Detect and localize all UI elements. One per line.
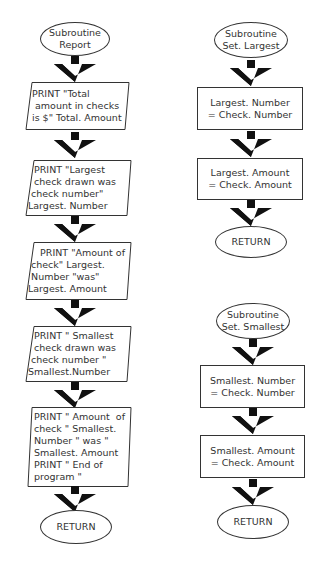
process-box-smallest-number: Smallest. Number = Check. Number [200, 365, 305, 408]
start-label: Subroutine Set. Smallest [222, 309, 285, 333]
start-label: Subroutine Report [49, 27, 101, 51]
flow-arrow-icon [52, 132, 98, 158]
flow-arrow-icon [52, 486, 98, 512]
flow-arrow-icon [52, 300, 98, 326]
output-text: PRINT "Total amount in checks is $" Tota… [32, 88, 122, 124]
flow-arrow-icon [230, 339, 276, 365]
start-terminal-report: Subroutine Report [40, 22, 110, 56]
output-box-largest-amount: PRINT "Amount of check" Largest. Number … [24, 242, 132, 300]
flow-arrow-icon [52, 216, 98, 242]
start-terminal-set-smallest: Subroutine Set. Smallest [216, 303, 290, 339]
process-text: Smallest. Number = Check. Number [210, 375, 295, 399]
flow-arrow-icon [228, 131, 274, 157]
flow-arrow-icon [228, 200, 274, 226]
flow-arrow-icon [228, 60, 274, 86]
process-text: Largest. Amount = Check. Amount [208, 167, 292, 191]
output-text: PRINT " Smallest check drawn was check n… [28, 330, 116, 378]
process-box-smallest-amount: Smallest. Amount = Check. Amount [200, 435, 305, 478]
start-label: Subroutine Set. Largest [222, 28, 279, 52]
flow-arrow-icon [52, 382, 98, 408]
output-box-largest-number: PRINT "Largest check drawn was check num… [24, 160, 132, 216]
output-text: PRINT "Largest check drawn was check num… [28, 164, 116, 212]
flow-arrow-icon [230, 408, 276, 434]
process-text: Smallest. Amount = Check. Amount [210, 445, 294, 469]
flow-arrow-icon [230, 479, 276, 505]
output-box-smallest-number: PRINT " Smallest check drawn was check n… [24, 326, 132, 382]
end-terminal-set-largest: RETURN [215, 226, 287, 258]
output-box-smallest-amount-end: PRINT " Amount of check " Smallest. Numb… [24, 407, 132, 487]
output-text: PRINT "Amount of check" Largest. Number … [28, 247, 125, 295]
return-label: RETURN [56, 521, 95, 533]
start-terminal-set-largest: Subroutine Set. Largest [214, 22, 288, 58]
end-terminal-set-smallest: RETURN [217, 505, 289, 539]
output-box-total-amount: PRINT "Total amount in checks is $" Tota… [24, 82, 130, 130]
process-box-largest-number: Largest. Number = Check. Number [197, 87, 303, 130]
flow-arrow-icon [52, 56, 98, 82]
end-terminal-report: RETURN [40, 510, 112, 544]
process-text: Largest. Number = Check. Number [208, 97, 292, 121]
output-text: PRINT " Amount of check " Smallest. Numb… [34, 411, 125, 483]
return-label: RETURN [231, 236, 270, 248]
process-box-largest-amount: Largest. Amount = Check. Amount [197, 158, 303, 200]
return-label: RETURN [233, 516, 272, 528]
